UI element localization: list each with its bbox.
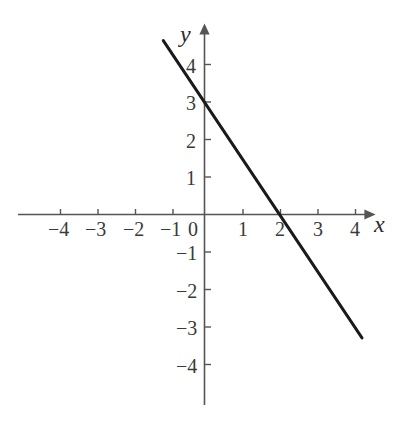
y-tick-label-minus1: −1 <box>176 243 197 263</box>
x-tick-label-4: 4 <box>350 219 360 239</box>
cartesian-plot: −4 −3 −2 −1 0 1 2 3 4 4 3 2 1 −1 −2 −3 −… <box>0 0 407 429</box>
x-tick-label-minus2: −2 <box>123 219 144 239</box>
x-tick-label-3: 3 <box>313 219 323 239</box>
x-tick-label-zero: 0 <box>188 219 198 239</box>
x-tick-label-1: 1 <box>238 219 248 239</box>
y-tick-label-minus2: −2 <box>176 281 197 301</box>
x-tick-label-minus1: −1 <box>160 219 181 239</box>
y-tick-label-4: 4 <box>186 56 196 76</box>
y-tick-label-1: 1 <box>186 168 196 188</box>
y-tick-label-minus3: −3 <box>176 318 197 338</box>
x-axis-label: x <box>374 212 385 236</box>
y-tick-label-2: 2 <box>186 131 196 151</box>
y-tick-label-minus4: −4 <box>176 356 197 376</box>
plot-canvas <box>0 0 407 429</box>
x-tick-label-2: 2 <box>275 219 285 239</box>
y-axis-label: y <box>180 22 191 46</box>
x-tick-label-minus4: −4 <box>48 219 69 239</box>
x-tick-label-minus3: −3 <box>85 219 106 239</box>
y-tick-label-3: 3 <box>186 93 196 113</box>
